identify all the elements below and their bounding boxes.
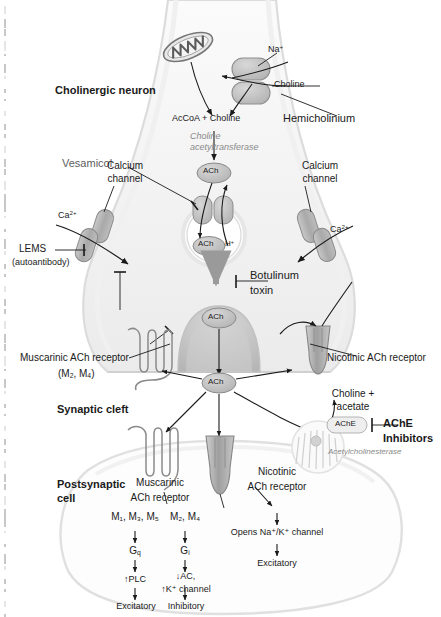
cholinergic-neuron-label: Cholinergic neuron <box>55 84 156 96</box>
degradation-line1: Choline + <box>318 388 388 399</box>
ach-cytosol-label: ACh <box>203 167 219 176</box>
calcium-channel-left-line1: Calcium <box>93 160 157 171</box>
postsynaptic-nicotinic-line1: Nicotinic <box>230 466 324 477</box>
ach-terminal-label: ACh <box>208 313 224 322</box>
calcium-ion-left-label: Ca2+ <box>58 210 76 220</box>
chat-enzyme-line2: acetyltransferase <box>190 142 259 152</box>
muscarinic-gq-subtypes: M₁, M₃, M₅ <box>103 511 167 522</box>
nicotinic-effect-label: Opens Na⁺/K⁺ channel <box>212 527 342 537</box>
botulinum-toxin-line1: Botulinum <box>250 269 299 281</box>
ache-full-name-label: Acetylcholinesterase <box>328 448 401 457</box>
muscarinic-autoreceptor-subtypes: (M2, M4) <box>58 368 94 380</box>
calcium-channel-right-line2: channel <box>288 173 352 184</box>
ach-cleft-label: ACh <box>208 378 224 387</box>
botulinum-toxin-line2: toxin <box>250 284 273 296</box>
degradation-line2: acetate <box>318 401 388 412</box>
effector-gi-line1: ↓AC, <box>163 571 208 581</box>
vesicle-ach-label: ACh <box>198 240 214 249</box>
synaptic-cleft-label: Synaptic cleft <box>57 403 129 415</box>
ache-inhibitors-line1: AChE <box>383 417 413 429</box>
lems-sublabel: (autoantibody) <box>12 257 70 267</box>
postsynaptic-muscarinic-line2: ACh receptor <box>115 492 205 503</box>
ache-inhibitors-line2: Inhibitors <box>383 432 433 444</box>
ache-tag-label: AChE <box>335 420 356 429</box>
postsynaptic-cell-line2: cell <box>57 492 75 504</box>
g-protein-q-label: Gq <box>120 545 150 557</box>
nicotinic-autoreceptor-label: Nicotinic ACh receptor <box>327 352 426 363</box>
muscarinic-gi-subtypes: M₂, M₄ <box>160 511 210 522</box>
outcome-gi-label: Inhibitory <box>157 601 215 611</box>
substrates-label: AcCoA + Choline <box>172 113 240 123</box>
nicotinic-outcome-label: Excitatory <box>246 558 308 568</box>
choline-transport-label: Choline <box>274 79 305 89</box>
chat-enzyme-line1: Choline <box>190 131 221 141</box>
postsynaptic-nicotinic-line2: ACh receptor <box>230 481 324 492</box>
hemicholinium-label: Hemicholinium <box>283 112 355 124</box>
calcium-channel-left-line2: channel <box>93 173 157 184</box>
effector-gi-line2: ↑K⁺ channel <box>148 584 224 594</box>
effector-gq-label: ↑PLC <box>110 574 160 584</box>
vesicle-proton-label: H+ <box>225 239 234 249</box>
sodium-ion-label: Na+ <box>268 44 283 54</box>
figure-canvas: Cholinergic neuron Na+ Choline Hemicholi… <box>0 0 441 617</box>
calcium-channel-right-line1: Calcium <box>288 160 352 171</box>
calcium-ion-right-label: Ca2+ <box>330 224 348 234</box>
g-protein-i-label: Gi <box>170 545 200 557</box>
lems-label: LEMS <box>19 243 46 254</box>
muscarinic-autoreceptor-label: Muscarinic ACh receptor <box>20 352 129 363</box>
postsynaptic-muscarinic-line1: Muscarinic <box>115 477 205 488</box>
